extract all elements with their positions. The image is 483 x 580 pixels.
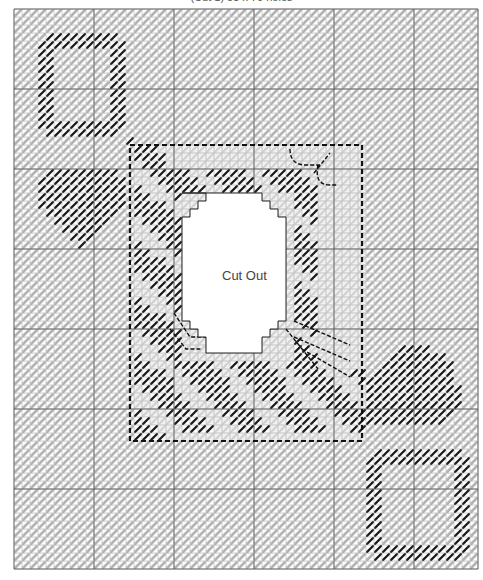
stitch-chart — [0, 0, 483, 580]
cutout-label: Cut Out — [222, 268, 267, 283]
